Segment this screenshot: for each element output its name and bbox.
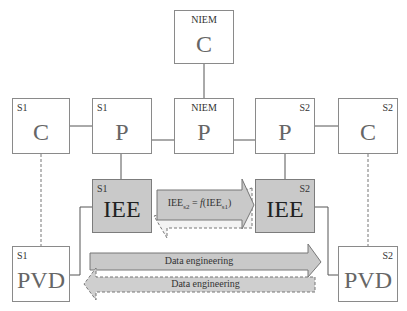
box-tag: S1 [97, 183, 108, 194]
s2-pvd-box[interactable]: S2 PVD [338, 246, 398, 302]
s2-concept-box[interactable]: S2 C [338, 98, 398, 154]
s1-process-box[interactable]: S1 P [92, 98, 152, 154]
box-label: C [339, 119, 397, 146]
box-label: IEE [256, 196, 314, 223]
s1-iee-box[interactable]: S1 IEE [92, 179, 152, 233]
box-label: PVD [13, 267, 69, 294]
box-tag: S2 [382, 250, 393, 261]
s1-concept-box[interactable]: S1 C [12, 98, 70, 154]
box-tag: S2 [299, 102, 310, 113]
box-tag: S1 [97, 102, 108, 113]
box-tag: S2 [299, 183, 310, 194]
box-tag: NIEM [175, 14, 233, 25]
s2-iee-box[interactable]: S2 IEE [255, 179, 315, 233]
s1-pvd-box[interactable]: S1 PVD [12, 246, 70, 302]
data-eng-backward-label: Data engineering [96, 278, 315, 289]
s2-process-box[interactable]: S2 P [255, 98, 315, 154]
niem-concept-box[interactable]: NIEM C [174, 10, 234, 64]
iee-mapping-label: IEEs2 = f(IEEs1) [157, 197, 242, 211]
box-label: P [175, 119, 233, 146]
niem-process-box[interactable]: NIEM P [174, 98, 234, 154]
box-tag: NIEM [175, 102, 233, 113]
box-label: C [175, 31, 233, 58]
box-label: C [13, 119, 69, 146]
box-tag: S1 [17, 102, 28, 113]
box-label: PVD [339, 267, 397, 294]
box-label: P [256, 119, 314, 146]
box-tag: S2 [382, 102, 393, 113]
box-tag: S1 [17, 250, 28, 261]
box-label: P [93, 119, 151, 146]
data-eng-forward-label: Data engineering [90, 255, 308, 266]
box-label: IEE [93, 196, 151, 223]
